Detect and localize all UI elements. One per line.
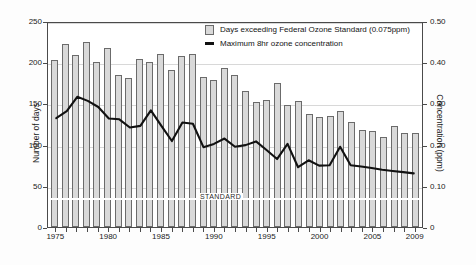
x-axis-tickmark xyxy=(182,228,183,232)
legend-item-bars: Days exceeding Federal Ozone Standard (0… xyxy=(205,24,410,35)
chart-legend: Days exceeding Federal Ozone Standard (0… xyxy=(205,24,410,52)
x-axis-tickmark xyxy=(76,228,77,232)
x-axis-tickmark xyxy=(129,228,130,232)
y-axis-right-tickmark xyxy=(423,228,427,229)
y-axis-left-tick-label: 0 xyxy=(20,223,42,232)
legend-label-line: Maximum 8hr ozone concentration xyxy=(220,39,343,48)
y-axis-left-tickmark xyxy=(43,63,47,64)
x-axis-tickmark xyxy=(172,228,173,232)
line-swatch-icon xyxy=(205,42,214,45)
line-series xyxy=(48,23,422,227)
ozone-trend-chart-figure: Number of days Concentration (ppm) STAND… xyxy=(0,0,476,265)
x-axis-tickmark xyxy=(87,228,88,232)
x-axis-tickmark xyxy=(394,228,395,232)
y-axis-left-tickmark xyxy=(43,146,47,147)
y-axis-right-tick-label: 0.20 xyxy=(430,141,446,150)
x-axis-tickmark xyxy=(119,228,120,232)
y-axis-left-tick-label: 50 xyxy=(20,182,42,191)
max-ozone-line xyxy=(56,97,413,174)
bar-swatch-icon xyxy=(205,25,214,35)
y-axis-right-tickmark xyxy=(423,187,427,188)
y-axis-left-tickmark xyxy=(43,187,47,188)
y-axis-right-tickmark xyxy=(423,104,427,105)
x-axis-tickmark xyxy=(351,228,352,232)
y-axis-right-tickmark xyxy=(423,146,427,147)
y-axis-left-title: Number of days xyxy=(31,103,41,163)
y-axis-left-tickmark xyxy=(43,22,47,23)
x-axis-tickmark xyxy=(383,228,384,232)
y-axis-right-tick-label: 0.40 xyxy=(430,58,446,67)
x-axis-tickmark xyxy=(298,228,299,232)
x-axis-tick-label: 2005 xyxy=(364,232,382,241)
y-axis-right-tick-label: 0.50 xyxy=(430,17,446,26)
x-axis-tickmark xyxy=(288,228,289,232)
x-axis-tickmark xyxy=(193,228,194,232)
x-axis-tick-label: 1975 xyxy=(46,232,64,241)
x-axis-tickmark xyxy=(341,228,342,232)
x-axis-tickmark xyxy=(330,228,331,232)
y-axis-left-tick-label: 250 xyxy=(20,17,42,26)
y-axis-left-tickmark xyxy=(43,104,47,105)
y-axis-right-tickmark xyxy=(423,63,427,64)
x-axis-tickmark xyxy=(140,228,141,232)
y-axis-left-tickmark xyxy=(43,228,47,229)
x-axis-tick-label: 1985 xyxy=(152,232,170,241)
x-axis-tickmark xyxy=(277,228,278,232)
x-axis-tickmark xyxy=(66,228,67,232)
x-axis-tick-label: 1990 xyxy=(205,232,223,241)
y-axis-left-tick-label: 100 xyxy=(20,141,42,150)
plot-area: STANDARD xyxy=(47,22,423,228)
x-axis-tickmark xyxy=(224,228,225,232)
x-axis-tick-label: 1995 xyxy=(258,232,276,241)
y-axis-right-tick-label: 0.30 xyxy=(430,99,446,108)
x-axis-tickmark xyxy=(235,228,236,232)
legend-item-line: Maximum 8hr ozone concentration xyxy=(205,38,410,49)
y-axis-right-tick-label: 0 xyxy=(430,223,434,232)
plot-inner: STANDARD xyxy=(48,23,422,227)
x-axis-tick-label: 2000 xyxy=(311,232,329,241)
x-axis-tick-label: 1980 xyxy=(99,232,117,241)
y-axis-right-tickmark xyxy=(423,22,427,23)
y-axis-left-tick-label: 200 xyxy=(20,58,42,67)
y-axis-right-tick-label: 0.10 xyxy=(430,182,446,191)
x-axis-tickmark xyxy=(246,228,247,232)
y-axis-left-tick-label: 150 xyxy=(20,99,42,108)
legend-label-bars: Days exceeding Federal Ozone Standard (0… xyxy=(220,25,410,34)
x-axis-tick-label: 2009 xyxy=(406,232,424,241)
